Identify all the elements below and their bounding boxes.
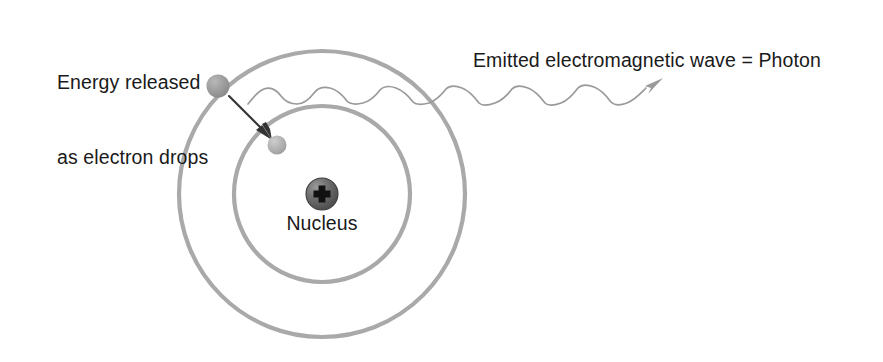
electron-outer bbox=[207, 75, 230, 98]
label-energy-released-line1: Energy released bbox=[57, 70, 208, 95]
wave-arrowhead bbox=[645, 78, 663, 94]
electromagnetic-wave bbox=[248, 85, 646, 105]
label-emitted-photon: Emitted electromagnetic wave = Photon bbox=[473, 48, 821, 73]
atom-photon-diagram: Energy released as electron drops Emitte… bbox=[0, 0, 883, 362]
label-nucleus: Nucleus bbox=[286, 211, 357, 236]
electron-inner bbox=[268, 136, 287, 155]
label-energy-released-line2: as electron drops bbox=[57, 145, 208, 170]
label-energy-released: Energy released as electron drops bbox=[57, 20, 208, 220]
